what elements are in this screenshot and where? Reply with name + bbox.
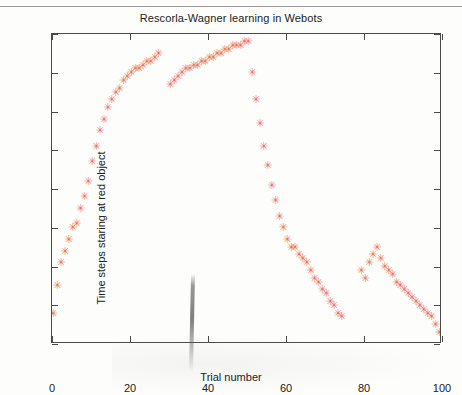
y-axis-tick-right — [434, 112, 440, 113]
data-point-marker — [376, 255, 383, 262]
y-axis-tick — [52, 112, 58, 113]
data-point-marker — [247, 69, 254, 76]
x-axis-tick — [442, 336, 443, 342]
x-axis-tick — [286, 336, 287, 342]
y-axis-tick-right — [434, 73, 440, 74]
data-point-marker — [302, 259, 309, 266]
y-axis-tick — [52, 267, 58, 268]
data-point-marker — [138, 62, 145, 69]
y-axis-tick — [52, 189, 58, 190]
data-point-marker — [267, 182, 274, 189]
data-point-marker — [392, 279, 399, 286]
data-point-marker — [232, 42, 239, 49]
y-axis-tick-right — [434, 34, 440, 35]
data-point-marker — [154, 50, 161, 57]
x-axis-tick-top — [52, 34, 53, 40]
data-point-marker — [84, 178, 91, 185]
data-point-marker — [208, 54, 215, 61]
data-point-marker — [255, 120, 262, 127]
data-point-marker — [407, 294, 414, 301]
data-point-marker — [80, 193, 87, 200]
data-point-marker — [107, 96, 114, 103]
data-point-marker — [72, 220, 79, 227]
data-point-marker — [400, 286, 407, 293]
data-point-marker — [322, 290, 329, 297]
data-point-marker — [283, 236, 290, 243]
data-point-marker — [290, 244, 297, 251]
x-axis-tick-top — [364, 34, 365, 40]
data-point-marker — [146, 58, 153, 65]
data-point-marker — [427, 313, 434, 320]
data-point-marker — [396, 282, 403, 289]
data-point-marker — [216, 50, 223, 57]
y-axis-tick — [52, 228, 58, 229]
data-point-marker — [130, 65, 137, 72]
data-point-marker — [388, 271, 395, 278]
data-point-marker — [380, 263, 387, 270]
data-point-marker — [166, 81, 173, 88]
x-axis-tick-label: 80 — [334, 382, 394, 394]
data-point-marker — [361, 275, 368, 282]
data-point-marker — [244, 38, 251, 45]
data-point-marker — [251, 96, 258, 103]
data-point-marker — [220, 46, 227, 53]
x-axis-tick — [208, 336, 209, 342]
data-point-marker — [169, 77, 176, 84]
data-point-marker — [52, 282, 59, 289]
data-point-marker — [123, 73, 130, 80]
y-axis-tick — [52, 150, 58, 151]
x-axis-tick-top — [286, 34, 287, 40]
data-point-marker — [127, 69, 134, 76]
plot-frame: Time steps staring at red object 0102030… — [51, 33, 441, 343]
y-axis-tick — [52, 344, 58, 345]
y-axis-tick-right — [434, 344, 440, 345]
data-point-marker — [177, 69, 184, 76]
data-point-marker — [150, 54, 157, 61]
data-point-marker — [224, 46, 231, 53]
data-point-marker — [310, 275, 317, 282]
data-point-marker — [56, 259, 63, 266]
x-axis-tick-top — [208, 34, 209, 40]
data-point-marker — [142, 58, 149, 65]
data-point-marker — [423, 310, 430, 317]
data-point-marker — [368, 251, 375, 258]
x-axis-tick — [130, 336, 131, 342]
data-point-marker — [119, 77, 126, 84]
data-point-marker — [431, 321, 438, 328]
data-point-marker — [318, 286, 325, 293]
y-axis-tick-right — [434, 305, 440, 306]
data-point-marker — [60, 248, 67, 255]
data-point-marker — [294, 251, 301, 258]
data-point-marker — [173, 73, 180, 80]
chart-title: Rescorla-Wagner learning in Webots — [0, 12, 462, 24]
data-point-marker — [201, 58, 208, 65]
y-axis-tick-right — [434, 267, 440, 268]
data-point-marker — [357, 267, 364, 274]
x-axis-tick — [364, 336, 365, 342]
data-point-marker — [372, 244, 379, 251]
data-point-marker — [333, 310, 340, 317]
data-point-marker — [193, 62, 200, 69]
data-point-marker — [212, 50, 219, 57]
data-point-marker — [384, 267, 391, 274]
data-point-marker — [415, 302, 422, 309]
y-axis-tick-right — [434, 228, 440, 229]
y-axis-tick — [52, 73, 58, 74]
x-axis-tick-top — [442, 34, 443, 40]
x-axis-tick-top — [130, 34, 131, 40]
data-point-marker — [286, 244, 293, 251]
data-point-marker — [197, 58, 204, 65]
data-point-marker — [228, 42, 235, 49]
data-point-marker — [240, 38, 247, 45]
data-point-marker — [76, 205, 83, 212]
data-point-marker — [411, 298, 418, 305]
data-point-marker — [236, 42, 243, 49]
data-point-marker — [271, 197, 278, 204]
data-point-marker — [259, 143, 266, 150]
data-point-marker — [298, 255, 305, 262]
data-point-marker — [134, 65, 141, 72]
data-point-marker — [403, 290, 410, 297]
data-point-marker — [337, 313, 344, 320]
data-point-marker — [52, 310, 56, 317]
data-point-marker — [419, 306, 426, 313]
